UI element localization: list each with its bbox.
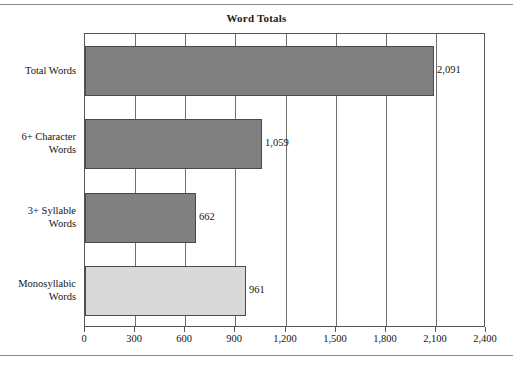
chart-title: Word Totals: [0, 12, 513, 24]
x-axis-tick-label: 1,500: [323, 333, 347, 344]
x-axis-tick-label: 1,800: [373, 333, 397, 344]
x-axis-tick-mark: [285, 327, 286, 332]
category-axis-label: MonosyllabicWords: [0, 277, 82, 303]
x-axis-tick-label: 1,200: [273, 333, 297, 344]
bar: [85, 46, 434, 96]
x-axis-tick-label: 0: [81, 333, 86, 344]
x-axis-tick-label: 600: [176, 333, 192, 344]
bar-value-label: 1,059: [265, 138, 289, 149]
plot-area: [84, 33, 485, 327]
category-axis-label: 3+ SyllableWords: [0, 204, 82, 230]
x-axis-tick-mark: [385, 327, 386, 332]
x-axis-tick-label: 2,100: [423, 333, 447, 344]
bars-group: [85, 34, 484, 326]
category-label-line: Words: [0, 290, 76, 303]
category-axis-label: 6+ CharacterWords: [0, 130, 82, 156]
bar: [85, 119, 262, 169]
bar: [85, 193, 196, 243]
bar-value-label: 961: [249, 285, 265, 296]
chart-figure: Word Totals Total Words6+ CharacterWords…: [0, 0, 513, 366]
category-axis-label: Total Words: [0, 64, 82, 77]
bar-value-label: 662: [199, 212, 215, 223]
x-axis-tick-label: 900: [226, 333, 242, 344]
top-divider-rule: [0, 4, 513, 5]
x-axis-tick-mark: [134, 327, 135, 332]
x-axis-tick-mark: [335, 327, 336, 332]
category-label-line: 3+ Syllable: [0, 204, 76, 217]
bar-value-label: 2,091: [437, 65, 461, 76]
category-label-line: Monosyllabic: [0, 277, 76, 290]
category-label-line: Total Words: [0, 64, 76, 77]
x-axis-tick-mark: [234, 327, 235, 332]
x-axis-tick-mark: [435, 327, 436, 332]
x-axis-tick-mark: [184, 327, 185, 332]
x-axis-tick-mark: [84, 327, 85, 332]
category-label-line: Words: [0, 217, 76, 230]
x-axis-tick-label: 300: [126, 333, 142, 344]
bottom-divider-rule: [0, 355, 513, 356]
x-axis-tick-label: 2,400: [473, 333, 497, 344]
x-axis-tick-mark: [485, 327, 486, 332]
category-label-line: Words: [0, 143, 76, 156]
bar: [85, 266, 246, 316]
category-label-line: 6+ Character: [0, 130, 76, 143]
